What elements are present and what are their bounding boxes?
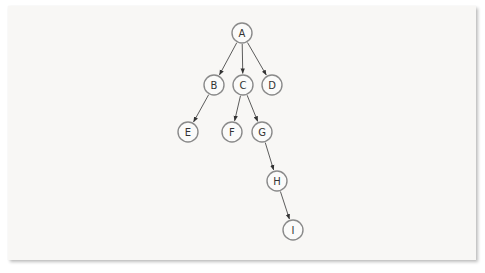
node-label: E bbox=[185, 127, 191, 138]
node-label: D bbox=[268, 80, 276, 91]
node-label: G bbox=[258, 127, 266, 138]
edge-c-f bbox=[235, 96, 241, 121]
node-f: F bbox=[222, 122, 242, 142]
node-label: B bbox=[211, 80, 218, 91]
edge-g-h bbox=[265, 143, 273, 170]
node-label: A bbox=[239, 28, 246, 39]
nodes-group: ABCDEFGHI bbox=[178, 23, 303, 240]
edge-a-d bbox=[247, 43, 266, 76]
edge-a-b bbox=[219, 43, 236, 75]
node-c: C bbox=[233, 75, 253, 95]
node-e: E bbox=[178, 122, 198, 142]
edge-h-i bbox=[280, 191, 289, 219]
edge-a-c bbox=[242, 44, 243, 74]
edge-c-g bbox=[247, 95, 258, 121]
node-label: C bbox=[240, 80, 247, 91]
node-b: B bbox=[204, 75, 224, 95]
node-label: H bbox=[273, 176, 281, 187]
node-label: F bbox=[229, 127, 235, 138]
node-i: I bbox=[283, 220, 303, 240]
tree-diagram: ABCDEFGHI bbox=[0, 0, 485, 273]
node-g: G bbox=[252, 122, 272, 142]
node-d: D bbox=[262, 75, 282, 95]
node-h: H bbox=[267, 171, 287, 191]
node-label: I bbox=[292, 225, 295, 236]
edge-b-e bbox=[194, 95, 209, 122]
node-a: A bbox=[232, 23, 252, 43]
